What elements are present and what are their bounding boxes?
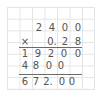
digit: 0 — [58, 48, 70, 60]
partial-product-row-1: 1 9 2 0 0 — [0, 48, 99, 60]
partial-product-row-2: 4 8 0 0 — [0, 60, 99, 72]
digit: 0 — [59, 22, 71, 34]
digit: 0 — [43, 60, 55, 72]
digit: 8 — [30, 60, 42, 72]
result-row: 6 7 2. 0 0 — [0, 76, 99, 88]
multiplicand-row: 2 4 0 0 — [0, 22, 99, 34]
sum-rule — [19, 74, 82, 75]
digit: 2 — [45, 48, 57, 60]
digit: 0 — [55, 60, 67, 72]
digit: 0 — [66, 76, 78, 88]
digit: 4 — [46, 22, 58, 34]
digit: 9 — [32, 48, 44, 60]
digit: 2 — [33, 22, 45, 34]
digit: 0 — [72, 22, 84, 34]
digit: 0 — [72, 48, 84, 60]
digit: 7 — [30, 76, 42, 88]
digit: 2. — [42, 76, 54, 88]
digit: 1 — [19, 48, 31, 60]
